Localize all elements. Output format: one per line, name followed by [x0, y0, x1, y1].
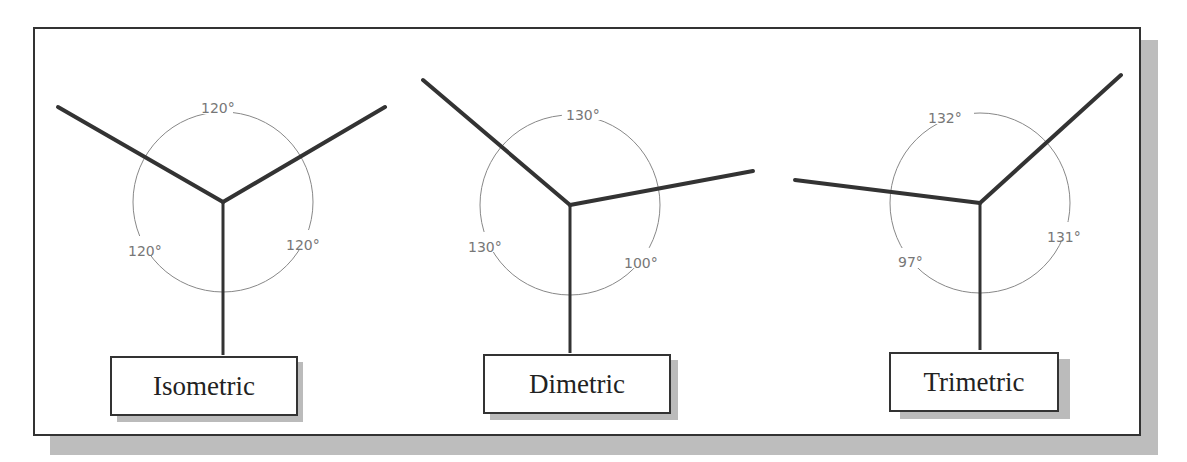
isometric-label: Isometric [153, 371, 255, 402]
isometric-angle-left: 120° [128, 243, 162, 259]
trimetric-angle-left: 97° [898, 254, 923, 270]
dimetric-axes: 130° 130° 100° [423, 80, 753, 353]
trimetric-axes: 132° 97° 131° [795, 75, 1121, 350]
dimetric-angle-right: 100° [624, 255, 658, 271]
trimetric-angle-top: 132° [928, 110, 962, 126]
isometric-angle-right: 120° [286, 237, 320, 253]
trimetric-label: Trimetric [924, 367, 1025, 398]
dimetric-angle-top: 130° [566, 107, 600, 123]
dimetric-label-box: Dimetric [483, 354, 671, 414]
isometric-axes: 120° 120° 120° [58, 98, 385, 355]
isometric-label-box: Isometric [110, 356, 298, 416]
dimetric-angle-left: 130° [468, 239, 502, 255]
trimetric-label-box: Trimetric [889, 352, 1059, 412]
trimetric-angle-right: 131° [1047, 229, 1081, 245]
dimetric-label: Dimetric [529, 369, 625, 400]
isometric-angle-top: 120° [201, 100, 235, 116]
